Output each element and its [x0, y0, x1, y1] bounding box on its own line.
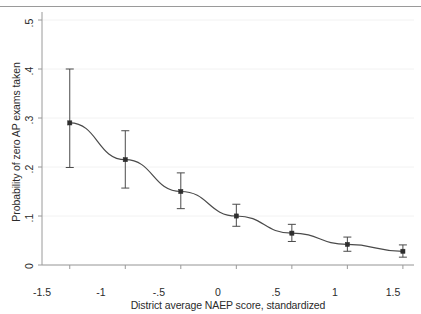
chart-figure: Probability of zero AP exams taken Distr… [0, 0, 421, 314]
error-bars [66, 69, 407, 257]
axis-lines [42, 12, 414, 265]
plot-area [0, 0, 421, 314]
fit-line [70, 123, 403, 251]
data-markers [68, 121, 405, 254]
tick-marks [38, 20, 403, 269]
